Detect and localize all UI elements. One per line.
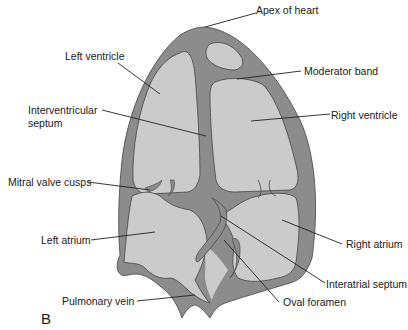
label-apex-of-heart: Apex of heart — [256, 4, 318, 16]
label-mitral-valve-cusps: Mitral valve cusps — [8, 176, 91, 188]
label-right-ventricle: Right ventricle — [331, 109, 398, 121]
left-ventricle-chamber — [133, 52, 200, 194]
label-left-atrium: Left atrium — [41, 234, 91, 246]
label-pulmonary-vein: Pulmonary vein — [62, 295, 134, 307]
heart-diagram: Apex of heart Left ventricle Moderator b… — [0, 0, 408, 330]
label-interventricular-septum-line2: septum — [28, 117, 62, 129]
label-right-atrium: Right atrium — [346, 238, 403, 250]
label-oval-foramen: Oval foramen — [283, 296, 346, 308]
label-left-ventricle: Left ventricle — [65, 50, 125, 62]
label-interatrial-septum: Interatrial septum — [326, 278, 407, 290]
label-interventricular-septum-line1: Interventricular — [28, 104, 97, 116]
label-moderator-band: Moderator band — [304, 65, 378, 77]
panel-label: B — [41, 310, 51, 327]
